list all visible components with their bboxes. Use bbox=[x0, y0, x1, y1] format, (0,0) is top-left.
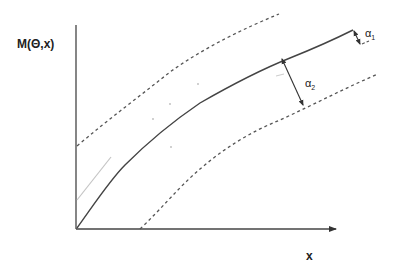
alpha1-subscript: 1 bbox=[371, 34, 375, 41]
speck bbox=[152, 118, 154, 120]
alpha2-label: α2 bbox=[305, 77, 315, 91]
mean-curve bbox=[77, 30, 353, 228]
alpha1-arrow bbox=[354, 31, 360, 44]
speck bbox=[170, 146, 172, 148]
alpha1-bound-stub bbox=[362, 41, 369, 44]
speck bbox=[169, 103, 171, 105]
speck bbox=[197, 83, 199, 85]
speck-dash bbox=[276, 74, 284, 76]
alpha2-arrow bbox=[282, 59, 303, 105]
alpha2-subscript: 2 bbox=[311, 84, 315, 91]
diagram: M(Θ,x) x α1 α2 bbox=[0, 0, 406, 272]
x-axis-label: x bbox=[306, 249, 313, 263]
upper-bound-curve bbox=[77, 14, 279, 146]
lower-bound-curve bbox=[140, 74, 378, 229]
y-axis-label: M(Θ,x) bbox=[17, 37, 54, 51]
alpha1-label: α1 bbox=[365, 27, 375, 41]
initial-tangent-line bbox=[77, 157, 111, 200]
